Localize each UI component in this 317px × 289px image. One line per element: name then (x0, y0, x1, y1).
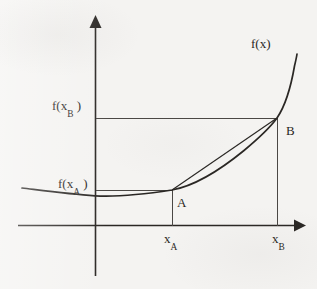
point-label-a: A (177, 196, 186, 209)
x-tick-label-b-subscript: B (279, 242, 285, 252)
y-value-label-b: f(xB ) (52, 99, 81, 112)
function-curve (22, 54, 297, 196)
chord-segment-ab (172, 118, 277, 190)
y-value-label-a: f(xA ) (58, 177, 88, 190)
x-tick-label-b: xB (272, 232, 285, 245)
y-value-label-a-suffix: ) (80, 176, 88, 191)
axes-group (18, 22, 296, 276)
figure-canvas: f(x) f(xB ) f(xA ) A B xA xB (0, 0, 317, 289)
y-value-label-a-subscript: A (73, 187, 80, 197)
y-value-label-a-prefix: f(x (58, 176, 73, 191)
y-value-label-b-prefix: f(x (52, 98, 67, 113)
function-label: f(x) (251, 37, 271, 50)
x-axis-arrowhead (294, 220, 306, 232)
y-axis-arrowhead (90, 15, 102, 28)
x-tick-label-a-subscript: A (171, 242, 178, 252)
x-tick-label-a: xA (164, 232, 177, 245)
reference-lines-group (96, 118, 278, 226)
point-label-b: B (286, 124, 295, 137)
x-tick-label-a-prefix: x (164, 231, 171, 246)
x-tick-label-b-prefix: x (272, 231, 279, 246)
y-value-label-b-subscript: B (67, 109, 73, 119)
y-value-label-b-suffix: ) (73, 98, 81, 113)
